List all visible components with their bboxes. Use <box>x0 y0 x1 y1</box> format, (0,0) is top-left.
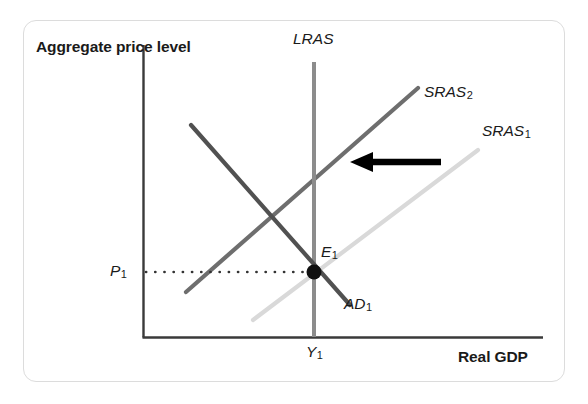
curve-label-lras: LRAS <box>293 30 334 47</box>
curve-label-ad1-subscript: 1 <box>366 301 373 313</box>
curve-label-sras2: SRAS2 <box>424 83 473 101</box>
x-axis-tick-label-y1: Y1 <box>306 343 323 361</box>
x-axis-tick-subscript: 1 <box>316 349 323 361</box>
curve-label-sras1-subscript: 1 <box>524 128 531 140</box>
sras-shift-arrow-icon <box>350 152 441 172</box>
diagram-canvas <box>0 0 588 404</box>
figure-container: Aggregate price level Real GDP LRAS SRAS… <box>0 0 588 404</box>
curve-label-ad1: AD1 <box>344 295 372 313</box>
curve-sras2 <box>186 88 418 292</box>
equilibrium-point-dot <box>307 265 322 280</box>
x-axis-title: Real GDP <box>458 348 528 365</box>
y-axis-title: Aggregate price level <box>36 38 134 55</box>
y-axis-tick-subscript: 1 <box>120 268 127 280</box>
y-axis-tick-label-p1: P1 <box>110 262 127 280</box>
equilibrium-point-label: E1 <box>321 243 338 261</box>
equilibrium-point-label-subscript: 1 <box>331 249 338 261</box>
curve-label-sras2-subscript: 2 <box>466 89 473 101</box>
curve-ad1 <box>191 125 350 305</box>
curve-label-sras1: SRAS1 <box>482 122 531 140</box>
